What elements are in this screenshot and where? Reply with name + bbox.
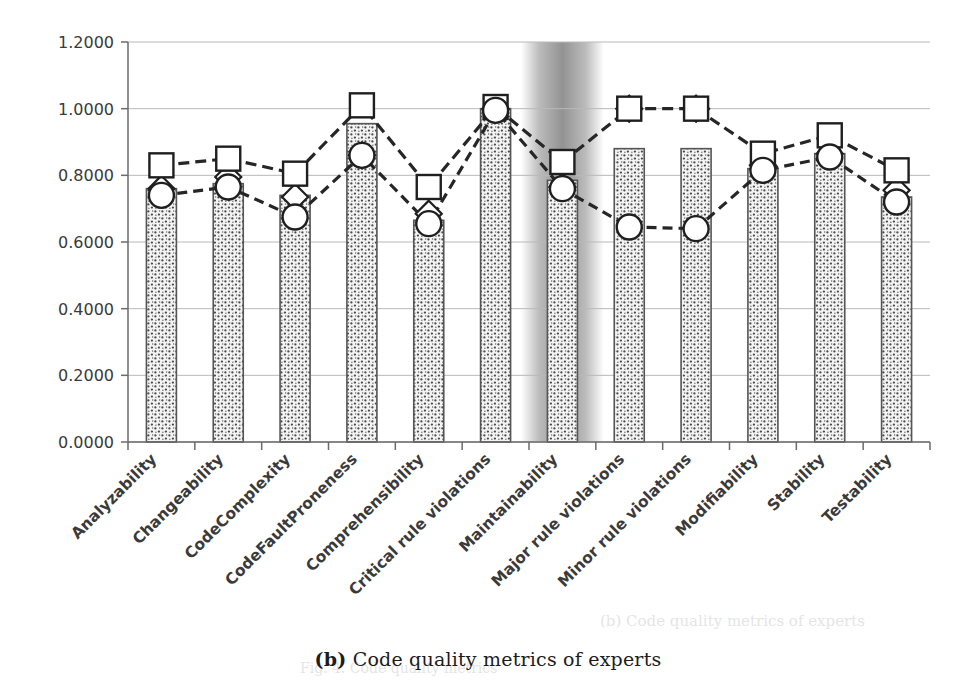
chart-plot-area: 0.00000.20000.40000.60000.80001.00001.20… [0,0,976,600]
y-tick-labels: 0.00000.20000.40000.60000.80001.00001.20… [58,33,114,452]
y-tick-label: 0.4000 [58,300,114,319]
x-tick-label: Comprehensibility [302,450,427,575]
chart-svg: 0.00000.20000.40000.60000.80001.00001.20… [0,0,976,600]
marker-square-expert-maximum [149,153,173,177]
x-tick-label: Stability [764,450,829,515]
x-tick-label: Critical rule violations [345,450,494,599]
y-tick-label: 1.0000 [58,100,114,119]
bar-expert-average [481,109,511,442]
marker-circle-expert-minimum [884,190,909,215]
bar-expert-average [614,149,644,442]
x-tick-label: CodeFaultProneness [222,450,361,589]
marker-circle-expert-minimum [349,143,374,168]
marker-circle-expert-minimum [416,211,441,236]
x-tick-label: Testability [819,450,896,527]
marker-circle-expert-minimum [684,216,709,241]
bar-expert-average [547,180,577,442]
y-tick-label: 0.8000 [58,166,114,185]
marker-square-expert-maximum [550,150,574,174]
marker-square-expert-maximum [617,97,641,121]
bar-expert-average [213,184,243,442]
bar-expert-average [882,197,912,442]
bar-expert-average [748,169,778,442]
bar-expert-average [347,124,377,442]
figure-code-quality-metrics-experts: (b) Code quality metrics of experts Fig.… [0,0,976,686]
y-tick-label: 0.2000 [58,366,114,385]
caption-text: Code quality metrics of experts [353,648,662,670]
x-tick-labels: AnalyzabilityChangeabilityCodeComplexity… [68,450,896,599]
marker-circle-expert-minimum [149,183,174,208]
bar-expert-average [414,220,444,442]
y-tick-label: 1.2000 [58,33,114,52]
marker-square-expert-maximum [350,93,374,117]
x-tick-label: Minor rule violations [554,450,695,591]
y-tick-label: 0.0000 [58,433,114,452]
marker-square-expert-maximum [684,97,708,121]
marker-circle-expert-minimum [550,176,575,201]
marker-circle-expert-minimum [283,205,308,230]
y-tick-label: 0.6000 [58,233,114,252]
figure-caption: (b) Code quality metrics of experts [0,648,976,670]
bar-expert-average [815,154,845,442]
marker-circle-expert-minimum [750,158,775,183]
bar-expert-average [146,189,176,442]
caption-label: (b) [315,648,347,670]
marker-circle-expert-minimum [817,145,842,170]
marker-circle-expert-minimum [483,98,508,123]
marker-circle-expert-minimum [617,215,642,240]
marker-square-expert-maximum [283,162,307,186]
marker-square-expert-maximum [417,175,441,199]
marker-square-expert-maximum [216,147,240,171]
x-tick-label: Major rule violations [488,450,628,590]
marker-circle-expert-minimum [216,175,241,200]
marker-square-expert-maximum [885,158,909,182]
bar-expert-average [681,149,711,442]
bleed-through-top: (b) Code quality metrics of experts [600,612,865,630]
bar-expert-average [280,195,310,442]
